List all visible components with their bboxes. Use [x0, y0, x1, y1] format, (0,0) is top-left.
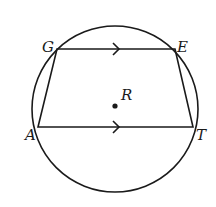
inscribed-trapezoid-diagram: G E A T R	[0, 0, 216, 207]
trapezoid-GETA	[38, 49, 193, 127]
center-point-R	[112, 103, 117, 108]
center-label-R: R	[120, 86, 132, 104]
vertex-label-A: A	[23, 126, 36, 144]
vertex-label-G: G	[42, 38, 54, 56]
vertex-label-T: T	[196, 126, 207, 144]
vertex-label-E: E	[176, 38, 188, 56]
